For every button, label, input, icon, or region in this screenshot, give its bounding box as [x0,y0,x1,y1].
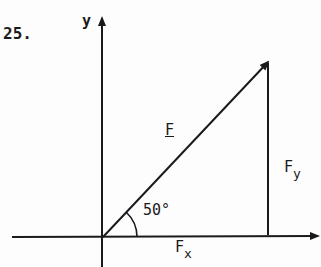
fx-label: Fx [175,240,192,255]
force-vector [103,62,268,237]
fy-sub: y [293,166,301,181]
fx-sub: x [184,246,192,261]
y-axis-label: y [82,14,91,29]
x-axis [12,236,318,237]
fx-main: F [175,238,184,256]
problem-number: 25. [3,26,32,42]
fy-label: Fy [284,160,301,175]
fy-main: F [284,158,293,176]
angle-arc [126,212,137,237]
angle-label: 50° [143,203,170,218]
diagram-canvas: 25. y F 50° Fy Fx [0,0,321,267]
force-diagram [0,0,321,267]
vector-label: F [165,123,174,138]
